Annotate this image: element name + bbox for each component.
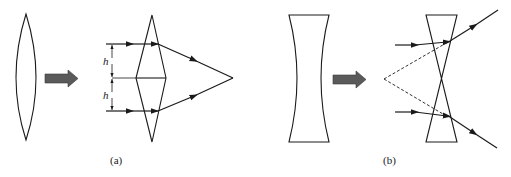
ray-upper-a <box>106 44 233 78</box>
panel-caption-a: (a) <box>110 154 123 167</box>
transform-arrow-icon <box>45 70 78 87</box>
transform-arrow-icon <box>333 71 366 88</box>
ray-lower-b <box>395 112 497 148</box>
optics-diagram: h h (a) <box>0 0 511 177</box>
dimension-h-upper: h <box>103 45 112 77</box>
panel-caption-b: (b) <box>383 154 396 167</box>
ray-lower-a <box>106 78 233 111</box>
virtual-ray-lower <box>384 79 448 117</box>
prism-pair-apex-to-apex <box>426 15 457 142</box>
dimension-label-h: h <box>103 55 109 67</box>
dimension-h-lower: h <box>103 79 112 110</box>
convex-lens <box>16 14 36 140</box>
concave-lens <box>289 15 329 142</box>
panel-a: h h (a) <box>16 14 233 167</box>
panel-b: (b) <box>289 10 498 167</box>
dimension-label-h: h <box>103 89 109 101</box>
virtual-ray-upper <box>384 42 448 79</box>
